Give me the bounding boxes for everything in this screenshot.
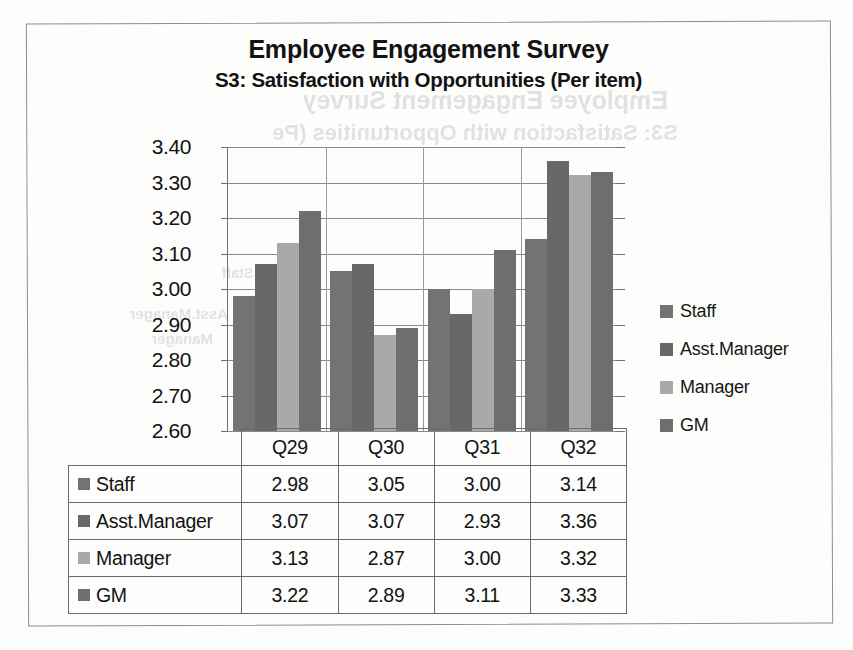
- table-cell: 2.89: [338, 577, 434, 614]
- y-tick-right: [617, 325, 625, 326]
- chart-data-table: Q29Q30Q31Q32Staff2.983.053.003.14Asst.Ma…: [68, 428, 627, 614]
- bar-q32-asst-manager: [547, 161, 569, 431]
- bar-q32-staff: [525, 239, 547, 431]
- legend-label: Asst.Manager: [680, 339, 789, 360]
- y-axis-tick-label: 2.60: [101, 420, 191, 441]
- table-series-swatch-icon: [78, 478, 90, 490]
- table-cell: 2.93: [434, 503, 530, 540]
- table-cell: 3.13: [242, 540, 338, 577]
- y-tick-left: [221, 289, 228, 290]
- bar-q32-gm: [591, 172, 613, 431]
- legend-label: Manager: [680, 377, 750, 398]
- y-tick-right: [617, 360, 625, 361]
- y-axis-tick-label: 2.90: [101, 314, 191, 335]
- table-series-swatch-icon: [78, 589, 90, 601]
- legend-item-gm: GM: [660, 406, 789, 444]
- table-cell: 3.00: [434, 466, 530, 503]
- y-tick-right: [617, 254, 625, 255]
- y-axis-tick-label: 3.20: [101, 207, 191, 228]
- table-cell: 3.32: [530, 540, 626, 577]
- table-row: GM3.222.893.113.33: [69, 577, 627, 614]
- bar-group-q31: [423, 147, 521, 431]
- bar-q29-manager: [277, 243, 299, 431]
- table-row-label: Asst.Manager: [96, 510, 213, 533]
- table-series-swatch-icon: [78, 515, 90, 527]
- table-cell: 3.00: [434, 540, 530, 577]
- bar-q31-asst-manager: [450, 314, 472, 431]
- y-axis-tick-label: 3.10: [101, 243, 191, 264]
- legend-swatch-icon: [660, 381, 673, 394]
- y-axis-tick-label: 2.70: [101, 385, 191, 406]
- table-row-label: Staff: [96, 473, 134, 496]
- y-tick-left: [221, 325, 228, 326]
- y-axis-tick-label: 3.40: [101, 136, 191, 157]
- table-row-label-cell: Manager: [69, 540, 242, 577]
- y-tick-right: [617, 218, 625, 219]
- chart-legend: StaffAsst.ManagerManagerGM: [660, 292, 789, 444]
- bar-group-q32: [521, 147, 619, 431]
- bar-q31-manager: [472, 289, 494, 431]
- y-tick-right: [617, 289, 625, 290]
- table-cell: 3.36: [530, 503, 626, 540]
- chart-title-block: Employee Engagement Survey S3: Satisfact…: [27, 34, 830, 92]
- table-row-label: GM: [96, 584, 127, 607]
- legend-swatch-icon: [660, 419, 673, 432]
- legend-label: GM: [680, 415, 709, 436]
- y-tick-right: [617, 396, 625, 397]
- bar-q30-staff: [330, 271, 352, 431]
- y-tick-left: [221, 396, 228, 397]
- legend-label: Staff: [680, 301, 716, 322]
- chart-title-subtitle: S3: Satisfaction with Opportunities (Per…: [27, 67, 830, 93]
- legend-item-staff: Staff: [660, 292, 789, 330]
- table-cell: 3.22: [242, 577, 338, 614]
- table-cell: 3.33: [530, 577, 626, 614]
- y-tick-left: [221, 254, 228, 255]
- table-series-swatch-icon: [78, 552, 90, 564]
- y-tick-left: [221, 218, 228, 219]
- table-cell: 2.87: [338, 540, 434, 577]
- table-column-header-q31: Q31: [434, 429, 530, 466]
- y-axis-tick-label: 3.00: [101, 278, 191, 299]
- y-tick-left: [221, 147, 228, 148]
- category-separator: [521, 147, 522, 431]
- table-cell: 3.11: [434, 577, 530, 614]
- chart-title-main: Employee Engagement Survey: [27, 34, 830, 65]
- bar-q30-manager: [374, 335, 396, 431]
- table-row-label-cell: Asst.Manager: [69, 503, 242, 540]
- table-cell: 3.14: [530, 466, 626, 503]
- category-separator: [423, 147, 424, 431]
- table-row: Asst.Manager3.073.072.933.36: [69, 503, 627, 540]
- legend-item-manager: Manager: [660, 368, 789, 406]
- bar-q29-gm: [299, 211, 321, 431]
- bar-q32-manager: [569, 175, 591, 431]
- y-tick-left: [221, 183, 228, 184]
- table-row: Staff2.983.053.003.14: [69, 466, 627, 503]
- y-tick-right: [617, 147, 625, 148]
- table-cell: 3.05: [338, 466, 434, 503]
- y-axis-tick-label: 3.30: [101, 172, 191, 193]
- table-column-header-q30: Q30: [338, 429, 434, 466]
- legend-swatch-icon: [660, 305, 673, 318]
- legend-item-asst-manager: Asst.Manager: [660, 330, 789, 368]
- table-row-label: Manager: [96, 547, 171, 570]
- bar-group-q30: [326, 147, 424, 431]
- plot-area: [228, 147, 618, 431]
- table-column-header-q32: Q32: [530, 429, 626, 466]
- bar-q29-staff: [233, 296, 255, 431]
- y-tick-left: [221, 360, 228, 361]
- y-axis-tick-label: 2.80: [101, 349, 191, 370]
- bar-q30-gm: [396, 328, 418, 431]
- bar-q30-asst-manager: [352, 264, 374, 431]
- bar-q31-staff: [428, 289, 450, 431]
- y-tick-right: [617, 183, 625, 184]
- table-cell: 2.98: [242, 466, 338, 503]
- table-row-label-cell: Staff: [69, 466, 242, 503]
- bar-group-q29: [228, 147, 326, 431]
- category-separator: [326, 147, 327, 431]
- bar-q29-asst-manager: [255, 264, 277, 431]
- bar-q31-gm: [494, 250, 516, 431]
- table-cell: 3.07: [242, 503, 338, 540]
- table-cell: 3.07: [338, 503, 434, 540]
- table-row-label-cell: GM: [69, 577, 242, 614]
- table-row: Manager3.132.873.003.32: [69, 540, 627, 577]
